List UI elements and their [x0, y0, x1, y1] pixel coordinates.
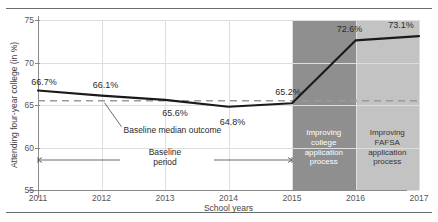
x-tick-label: 2012 [92, 193, 111, 203]
y-tick-label: 75 [25, 15, 34, 25]
baseline-median-leader-line [105, 103, 122, 127]
x-axis-label: School years [38, 203, 419, 213]
x-axis-line [28, 190, 407, 191]
x-tick-label: 2017 [410, 193, 429, 203]
data-label: 73.1% [388, 20, 414, 30]
chart-figure: Attending four-year college (in %) 55606… [0, 0, 438, 222]
y-axis-label: Attending four-year college (in %) [8, 20, 20, 190]
data-label: 64.8% [220, 117, 246, 127]
x-tick-label: 2015 [283, 193, 302, 203]
data-label: 66.1% [93, 80, 119, 90]
series-line [38, 36, 419, 107]
x-tick-label: 2013 [156, 193, 175, 203]
baseline-median-label: Baseline median outcome [124, 125, 222, 135]
y-tick-label: 70 [25, 58, 34, 68]
data-label: 65.6% [162, 108, 188, 118]
data-label: 72.6% [337, 24, 363, 34]
y-tick-label: 65 [25, 100, 34, 110]
y-tick-label: 60 [25, 143, 34, 153]
plot-area: 5560657075 2011201220132014201520162017 … [38, 20, 419, 190]
annotation-improving-fafsa-application-process: Improving FAFSA application process [356, 128, 420, 167]
annotation-improving-college-application-process: Improving college application process [292, 128, 356, 167]
x-tick-label: 2016 [346, 193, 365, 203]
y-axis-label-text: Attending four-year college (in %) [9, 42, 19, 168]
top-divider [6, 8, 432, 9]
x-tick-label: 2014 [219, 193, 238, 203]
data-label: 65.2% [275, 87, 301, 97]
x-tick-label: 2011 [29, 193, 47, 203]
y-tick-mark [35, 190, 40, 191]
data-label: 66.7% [31, 77, 57, 87]
gridline-vertical [419, 20, 420, 190]
baseline-period-label: Baseline period [38, 147, 292, 167]
